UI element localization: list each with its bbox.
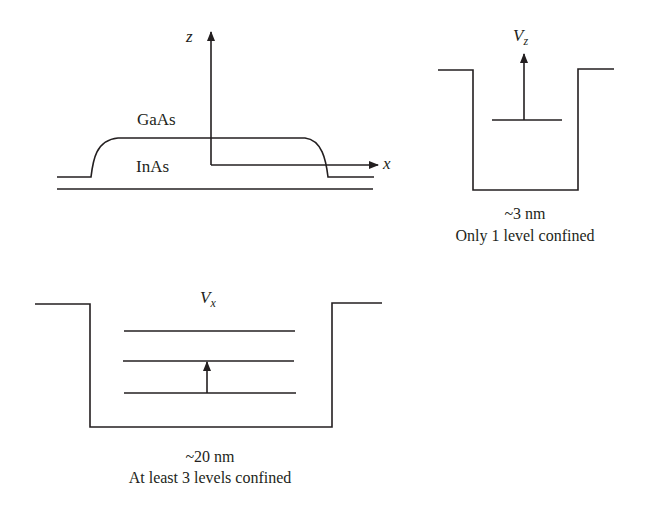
vx-potential-well (35, 303, 382, 427)
x-axis-label: x (383, 155, 391, 172)
vz-potential-well (438, 69, 614, 190)
vz-caption: Only 1 level confined (440, 226, 610, 246)
gaas-label: GaAs (137, 111, 176, 128)
quantum-dot-profile (57, 138, 374, 177)
inas-label: InAs (136, 158, 169, 175)
vx-label: Vx (200, 289, 216, 306)
vx-width-label: ~20 nm (150, 447, 270, 467)
vx-well-panel (35, 303, 382, 427)
vz-well-panel (438, 54, 614, 190)
vx-caption: At least 3 levels confined (90, 468, 330, 488)
vz-width-label: ~3 nm (470, 204, 580, 224)
diagram-canvas (0, 0, 655, 507)
z-axis-label: z (186, 28, 193, 45)
geometry-panel (57, 32, 378, 189)
vz-label: Vz (513, 27, 528, 44)
